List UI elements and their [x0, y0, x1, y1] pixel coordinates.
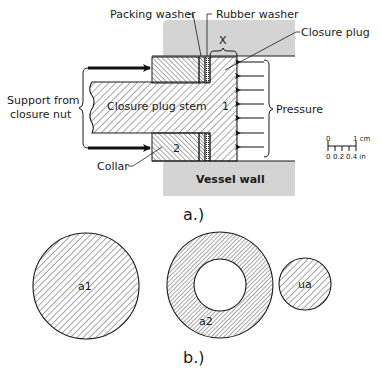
- packing-washer-label: Packing washer: [110, 8, 196, 21]
- pressure-label: Pressure: [276, 103, 323, 116]
- circle-a2-label: a2: [199, 315, 213, 328]
- circle-a1-label: a1: [78, 280, 92, 293]
- region-1-label: 1: [222, 100, 229, 113]
- support-label-line1: Support from: [7, 94, 80, 107]
- pressure-brace: [264, 60, 273, 157]
- pressure-arrows: [240, 62, 264, 147]
- circle-ua-label: ua: [298, 278, 312, 291]
- svg-text:0: 0: [326, 153, 330, 161]
- circle-a2-annulus: [167, 232, 273, 338]
- collar-label: Collar: [97, 160, 129, 173]
- support-brace: [79, 68, 88, 148]
- rubber-washer-label: Rubber washer: [216, 8, 299, 21]
- svg-text:0: 0: [326, 135, 330, 143]
- vessel-wall-label: Vessel wall: [196, 173, 265, 186]
- caption-a: a.): [183, 205, 204, 224]
- scale-bar: 0 1 cm 0 0.2 0.4 in: [326, 135, 371, 161]
- support-label-line2: closure nut: [10, 108, 72, 121]
- stem-label: Closure plug stem: [107, 100, 207, 113]
- closure-diagram: Packing washer Rubber washer Closure plu…: [0, 0, 381, 378]
- closure-plug-label: Closure plug: [301, 26, 370, 39]
- packing-washer-top: [152, 57, 199, 83]
- svg-text:0.4 in: 0.4 in: [346, 153, 366, 161]
- svg-text:1 cm: 1 cm: [353, 135, 371, 143]
- svg-text:0.2: 0.2: [333, 153, 344, 161]
- rubber-washer-bottom-dots: [205, 133, 210, 161]
- x-dimension-label: X: [219, 34, 227, 47]
- caption-b: b.): [183, 348, 204, 367]
- rubber-washer-top-dots: [205, 57, 210, 83]
- rubber-washer-top: [199, 57, 205, 83]
- region-2-label: 2: [173, 142, 180, 155]
- rubber-washer-bottom: [199, 133, 205, 161]
